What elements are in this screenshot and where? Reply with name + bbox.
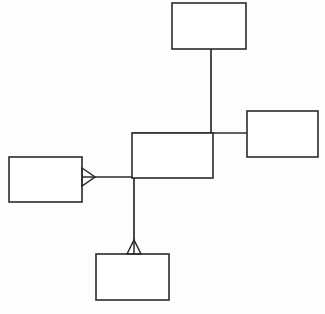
crowfoot-right-icon: [82, 168, 95, 186]
diagram-svg: [0, 0, 325, 314]
marker-layer: [82, 168, 141, 254]
node-top-rect[interactable]: [172, 3, 246, 49]
diagram-canvas: [0, 0, 325, 314]
node-center[interactable]: [132, 133, 213, 178]
node-bottom-rect[interactable]: [96, 254, 169, 300]
node-layer: [9, 3, 318, 300]
node-center-rect[interactable]: [132, 133, 213, 178]
node-bottom[interactable]: [96, 254, 169, 300]
crowfoot-down-icon: [127, 240, 141, 254]
node-left[interactable]: [9, 157, 82, 202]
node-right-rect[interactable]: [247, 111, 318, 157]
node-left-rect[interactable]: [9, 157, 82, 202]
node-right[interactable]: [247, 111, 318, 157]
node-top[interactable]: [172, 3, 246, 49]
